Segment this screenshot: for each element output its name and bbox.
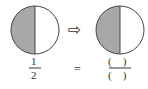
right-denominator-blank[interactable]: ( ): [108, 70, 126, 81]
left-numerator: 1: [31, 56, 37, 67]
arrow-icon: ⇨: [68, 22, 81, 38]
right-numerator-blank[interactable]: ( ): [108, 56, 126, 67]
left-circle: [11, 6, 59, 54]
right-circle: [96, 6, 144, 54]
equals-sign: =: [74, 63, 81, 75]
left-denominator: 2: [31, 70, 37, 81]
